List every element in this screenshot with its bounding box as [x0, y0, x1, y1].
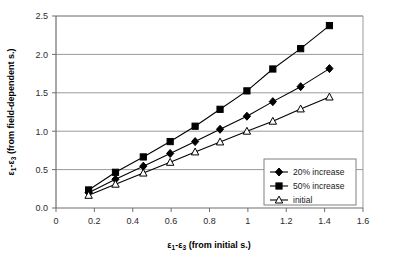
legend-label: 50% increase — [293, 181, 345, 191]
legend-label: 20% increase — [293, 167, 345, 177]
marker-square — [276, 183, 282, 189]
marker-square — [244, 88, 250, 94]
data-point-filled-square — [192, 123, 198, 129]
chart-container: 00.20.40.60.811.21.41.6 0.00.51.01.52.02… — [0, 0, 405, 261]
x-tick-label: 1.6 — [357, 216, 370, 226]
x-tick-label: 1.4 — [318, 216, 331, 226]
x-tick-label: 0.2 — [88, 216, 101, 226]
data-point-filled-square — [326, 23, 332, 29]
y-tick-label: 2.0 — [35, 50, 48, 60]
data-point-filled-square — [244, 88, 250, 94]
x-tick-label: 0 — [53, 216, 58, 226]
marker-square — [270, 66, 276, 72]
x-axis-title: ε1-ε3 (from initial s.) — [167, 240, 250, 251]
x-tick-label: 1 — [245, 216, 250, 226]
x-tick-label: 1.2 — [280, 216, 293, 226]
legend-label: initial — [293, 195, 312, 205]
y-tick-label: 0.5 — [35, 165, 48, 175]
marker-square — [192, 123, 198, 129]
y-tick-label: 1.5 — [35, 88, 48, 98]
x-tick-label: 0.8 — [203, 216, 216, 226]
y-axis-title: ε1-ε3 (from field-dependent s.) — [6, 49, 17, 176]
marker-square — [112, 169, 118, 175]
marker-square — [217, 106, 223, 112]
y-tick-label: 2.5 — [35, 11, 48, 21]
marker-square — [140, 154, 146, 160]
data-point-filled-square — [276, 183, 282, 189]
scatter-line-chart: 00.20.40.60.811.21.41.6 0.00.51.01.52.02… — [0, 0, 405, 261]
data-point-filled-square — [167, 138, 173, 144]
marker-square — [298, 46, 304, 52]
data-point-filled-square — [270, 66, 276, 72]
y-tick-label: 0.0 — [35, 203, 48, 213]
data-point-filled-square — [112, 169, 118, 175]
x-tick-label: 0.4 — [126, 216, 139, 226]
chart-legend[interactable]: 20% increase50% increaseinitial — [264, 159, 356, 205]
y-title-rest: (from field-dependent s.) — [6, 49, 16, 157]
y-tick-label: 1.0 — [35, 127, 48, 137]
marker-square — [326, 23, 332, 29]
x-tick-label: 0.6 — [165, 216, 178, 226]
marker-square — [167, 138, 173, 144]
data-point-filled-square — [217, 106, 223, 112]
data-point-filled-square — [298, 46, 304, 52]
x-title-rest: (from initial s.) — [186, 240, 251, 250]
data-point-filled-square — [140, 154, 146, 160]
